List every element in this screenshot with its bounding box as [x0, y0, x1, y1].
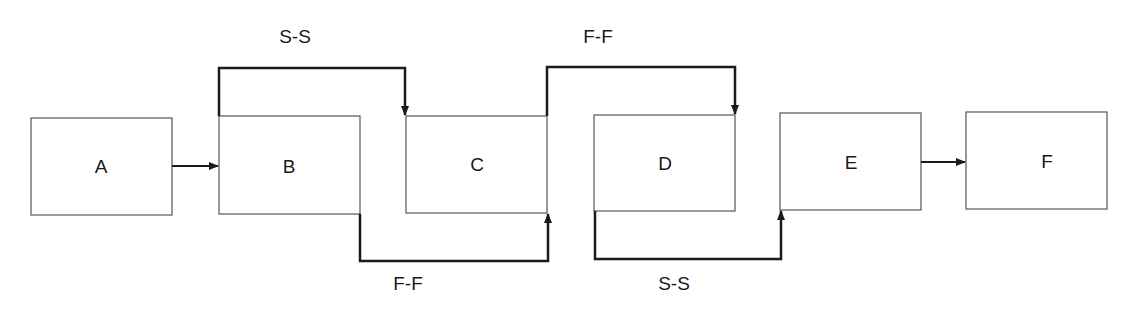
connector-d-e-start-start — [595, 211, 781, 259]
relationship-label-c-d-ff: F-F — [583, 26, 613, 47]
relationship-label-d-e-ss: S-S — [658, 273, 690, 294]
activity-box-a: A — [31, 118, 172, 215]
connector-b-c-start-start — [219, 68, 405, 116]
relationship-label-b-c-ff: F-F — [393, 273, 423, 294]
activity-label-b: B — [283, 156, 296, 177]
activity-label-e: E — [845, 152, 858, 173]
activity-box-b: B — [219, 116, 360, 214]
activity-box-d: D — [594, 115, 735, 211]
connector-c-d-finish-finish — [547, 67, 735, 116]
activity-box-c: C — [406, 116, 547, 213]
relationship-label-b-c-ss: S-S — [279, 26, 311, 47]
activity-label-a: A — [95, 156, 108, 177]
connector-b-c-finish-finish — [360, 214, 548, 261]
activity-box-e: E — [780, 113, 921, 210]
activity-label-c: C — [470, 154, 484, 175]
activity-label-f: F — [1041, 151, 1053, 172]
activity-box-f: F — [966, 112, 1107, 209]
activity-label-d: D — [658, 153, 672, 174]
precedence-diagram: A B C D E F S-S F-F F-F S-S — [0, 0, 1140, 325]
